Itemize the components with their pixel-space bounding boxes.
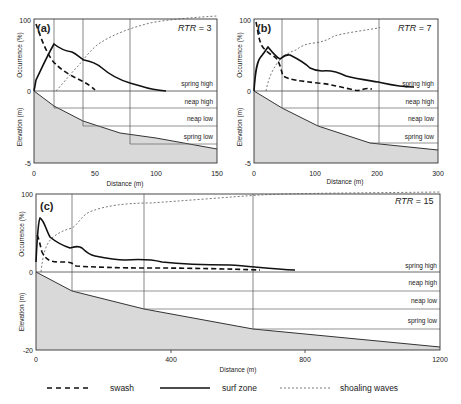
tide-label: neap low	[408, 115, 434, 123]
y-tick: 100	[19, 17, 31, 24]
legend: swash surf zone shoaling waves	[47, 383, 398, 393]
tide-label: spring low	[408, 317, 438, 325]
y-tick: -20	[23, 347, 33, 354]
panel-c-label: (c)	[40, 200, 54, 212]
x-tick: 0	[32, 170, 36, 177]
x-tick: 1200	[432, 356, 448, 363]
x-tick: 100	[309, 170, 321, 177]
x-tick: 300	[432, 170, 444, 177]
panel-b-rtr: RTR = 7	[398, 23, 432, 33]
x-tick: 150	[211, 170, 223, 177]
y-axis-label-occurrence: Occurrence (%)	[236, 32, 244, 78]
y-tick: -5	[245, 160, 251, 167]
y-axis-label-elevation: Elevation (m)	[18, 293, 26, 331]
panel-c: (c) RTR = 15 spring high neap high neap …	[18, 191, 448, 374]
x-axis-label: Distance (m)	[327, 178, 364, 186]
legend-surf-label: surf zone	[222, 383, 257, 393]
panel-a-rtr: RTR = 3	[178, 23, 212, 33]
panel-b: (b) RTR = 7 spring high neap high neap l…	[236, 17, 444, 186]
x-axis-label: Distance (m)	[107, 180, 144, 188]
panel-b-label: (b)	[257, 22, 271, 34]
x-tick: 50	[91, 170, 99, 177]
x-tick: 200	[371, 170, 383, 177]
x-tick: 800	[299, 356, 311, 363]
x-tick: 400	[165, 356, 177, 363]
tide-label: neap low	[411, 297, 437, 305]
tide-label: spring high	[181, 80, 213, 88]
y-tick: 0	[27, 88, 31, 95]
x-tick: 0	[34, 356, 38, 363]
y-tick: -5	[25, 160, 31, 167]
tide-label: spring high	[402, 80, 434, 88]
x-tick: 100	[150, 170, 162, 177]
x-tick: 0	[252, 170, 256, 177]
y-axis-label-occurrence: Occurrence (%)	[18, 211, 26, 257]
panel-c-rtr: RTR = 15	[395, 196, 434, 206]
tide-label: spring low	[184, 133, 214, 141]
figure: (a) RTR = 3 spring high neap high neap l…	[0, 0, 461, 404]
y-axis-label-occurrence: Occurrence (%)	[16, 32, 24, 78]
panel-a: (a) RTR = 3 spring high neap high neap l…	[16, 16, 223, 188]
panel-a-label: (a)	[37, 22, 51, 34]
y-axis-label-elevation: Elevation (m)	[236, 108, 244, 146]
y-axis-label-elevation: Elevation (m)	[16, 108, 24, 146]
tide-label: spring high	[405, 262, 437, 270]
tide-label: neap high	[184, 98, 213, 106]
tide-label: neap low	[187, 115, 213, 123]
legend-shoaling-label: shoaling waves	[340, 383, 398, 393]
tide-label: neap high	[405, 98, 434, 106]
tide-label: neap high	[408, 279, 437, 287]
y-tick: 0	[29, 269, 33, 276]
x-axis-label: Distance (m)	[220, 366, 257, 374]
y-tick: 100	[239, 17, 251, 24]
legend-swash-label: swash	[110, 383, 134, 393]
y-tick: 100	[21, 191, 33, 198]
tide-label: spring low	[405, 133, 435, 141]
y-tick: 0	[247, 88, 251, 95]
